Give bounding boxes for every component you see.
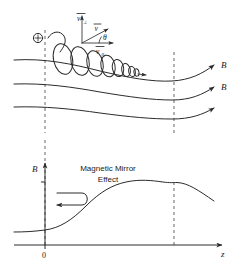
v-perp-subscript: ⊥ xyxy=(83,20,87,25)
field-line-label-b-2: B xyxy=(221,82,227,92)
label-theta: θ xyxy=(103,33,107,42)
plot-x-axis-label: z xyxy=(220,249,225,259)
label-v-total: v xyxy=(94,24,101,33)
v-perp-symbol: v xyxy=(77,14,81,23)
theta-symbol: θ xyxy=(103,33,107,42)
plot-origin-label: 0 xyxy=(42,251,46,260)
label-v-perpendicular: v ⊥ xyxy=(77,14,87,25)
caption-title: Magnetic Mirror xyxy=(80,164,136,173)
plot-x-axis xyxy=(14,245,222,249)
plot-y-axis-label: B xyxy=(32,164,38,174)
field-line-3 xyxy=(14,107,214,119)
v-total-symbol: v xyxy=(95,24,99,33)
plot-y-axis xyxy=(41,163,45,245)
reflection-arrow-icon xyxy=(57,193,87,205)
field-strength-curve xyxy=(14,180,214,232)
field-line-2 xyxy=(14,84,214,100)
magnetic-mirror-figure: B B v ⊥ v θ v 0 xyxy=(0,0,239,266)
field-line-label-b-1: B xyxy=(221,60,227,70)
charged-particle-icon xyxy=(33,33,42,42)
figure-canvas: B B v ⊥ v θ v 0 xyxy=(0,0,239,266)
caption-subtitle: Effect xyxy=(98,175,119,184)
